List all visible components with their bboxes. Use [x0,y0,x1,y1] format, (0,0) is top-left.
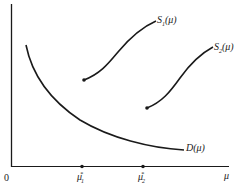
s1-start-dot [82,78,86,82]
curve-s2 [147,47,213,108]
s1-label: S1(μ) [157,15,177,27]
mu2-tick-dot [141,165,145,169]
mu2-tick-label: μ2* [138,171,149,184]
economics-diagram [0,0,240,194]
curve-d [26,45,184,150]
x-axis-label: μ [224,171,229,181]
s2-start-dot [145,106,149,110]
d-label: D(μ) [186,143,205,153]
mu1-tick-label: μ1* [77,171,88,184]
mu1-tick-dot [80,165,84,169]
origin-label: 0 [4,173,9,183]
curve-s1 [84,21,156,80]
s2-label: S2(μ) [214,42,234,54]
